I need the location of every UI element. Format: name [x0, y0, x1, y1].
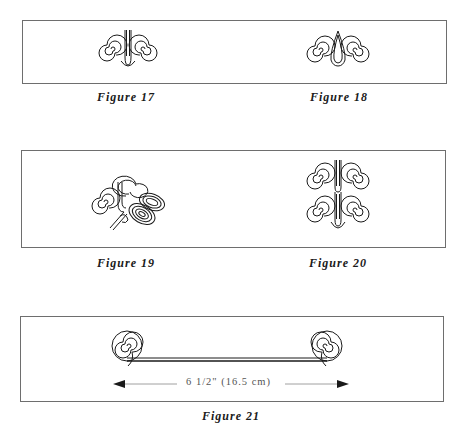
figure-21-wire-spiral-icon [108, 330, 358, 380]
figure-17-caption: Figure 17 [97, 90, 155, 105]
measurement-label: 6 1/2" (16.5 cm) [186, 376, 271, 387]
figure-17-spiral-icon [93, 27, 163, 72]
figure-20-spiral-icon [302, 160, 374, 235]
figure-panel-2 [21, 150, 446, 248]
figure-panel-1 [22, 20, 447, 84]
figure-18-caption: Figure 18 [310, 90, 368, 105]
arrow-right-icon [337, 380, 349, 388]
figure-21-caption: Figure 21 [202, 409, 260, 424]
figure-20-caption: Figure 20 [309, 256, 367, 271]
figure-19-spiral-icon [88, 180, 170, 235]
figure-18-spiral-icon [303, 28, 373, 70]
arrow-left-icon [113, 380, 125, 388]
figure-19-caption: Figure 19 [97, 256, 155, 271]
